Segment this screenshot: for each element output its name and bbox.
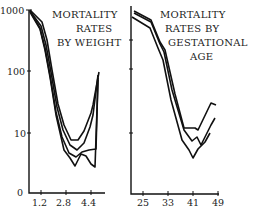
ylabel-1000: 1000 [0,5,24,16]
xlabel-49: 49 [212,197,224,208]
weight-title-line2: RATES [76,23,113,34]
ylabel-100: 100 [7,66,25,77]
xlabel-25: 25 [137,197,149,208]
chart-by-gestational-age: 25 33 41 49 MORTALITY RATES BY GESTATION… [129,6,248,208]
ylabel-0: 0 [17,187,23,198]
weight-title-line3: BY WEIGHT [57,37,122,48]
xlabel-4.4: 4.4 [81,197,96,208]
age-title-line3: GESTATIONAL [168,37,248,48]
age-title-line2: RATES BY [165,23,219,34]
xlabel-1.2: 1.2 [32,197,47,208]
mortality-charts: 1000 100 10 0 1.2 2.8 4.4 MORTALITY RATE… [0,0,253,211]
age-title-line1: MORTALITY [160,9,226,20]
ylabel-10: 10 [14,128,26,139]
xlabel-41: 41 [187,197,199,208]
age-title-line4: AGE [189,51,213,62]
weight-title-line1: MORTALITY [52,9,118,20]
weight-series-lower-b [30,12,98,167]
xlabel-2.8: 2.8 [56,197,71,208]
xlabel-33: 33 [162,197,174,208]
chart-by-weight: 1000 100 10 0 1.2 2.8 4.4 MORTALITY RATE… [0,5,122,208]
